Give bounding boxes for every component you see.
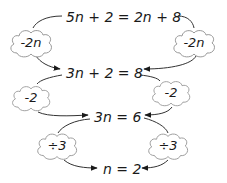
- equation-solving-diagram: 5n + 2 = 2n + 8 3n + 2 = 8 3n = 6 n = 2 …: [0, 0, 227, 183]
- arrow-left-step3-step4: [58, 119, 90, 133]
- equation-step-2: 3n + 2 = 8: [66, 65, 143, 81]
- arrow-left-step1-step2-tail: [36, 56, 60, 69]
- arrow-right-step2-step3-tail: [145, 107, 172, 115]
- operation-label-left-1: -2n: [20, 36, 41, 50]
- arrow-left-step2-step3: [37, 75, 62, 84]
- arrow-left-step3-step4-tail: [64, 160, 97, 168]
- equation-step-3: 3n = 6: [94, 109, 141, 125]
- arrow-left-step1-step2: [33, 16, 62, 28]
- equation-step-1: 5n + 2 = 2n + 8: [66, 9, 181, 25]
- arrow-right-step3-step4: [144, 118, 168, 133]
- arrow-right-step3-step4-tail: [142, 160, 168, 168]
- operation-label-right-2: -2: [165, 86, 178, 100]
- operation-label-left-2: -2: [25, 91, 38, 105]
- operation-label-left-3: ÷3: [47, 139, 66, 153]
- arrow-left-step2-step3-tail: [38, 112, 88, 116]
- operation-label-right-3: ÷3: [158, 139, 177, 153]
- equation-step-4: n = 2: [103, 161, 141, 177]
- operation-label-right-1: -2n: [183, 36, 204, 50]
- arrow-right-step2-step3: [140, 75, 160, 81]
- arrow-right-step1-step2-tail: [144, 56, 196, 69]
